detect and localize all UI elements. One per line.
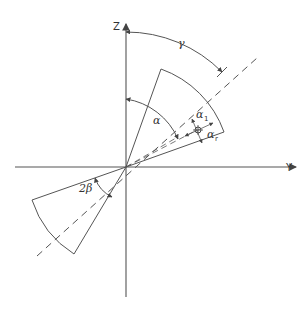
two-beta-label: 2β [78, 182, 92, 195]
diagram: Z Y γ α α 1 α r 2β [0, 0, 306, 311]
gamma-arc [126, 32, 222, 72]
gamma-label: γ [178, 37, 185, 50]
y-axis-label: Y [285, 162, 293, 173]
z-axis-label: Z [113, 21, 120, 32]
alpha-arc [126, 99, 178, 139]
lower-sector [32, 167, 126, 254]
alpha-r-label: α [207, 128, 215, 141]
alpha-label: α [153, 114, 161, 127]
alpha-r-subscript: r [215, 135, 218, 143]
alpha-1-subscript: 1 [204, 115, 208, 123]
sector-axis-dashed-line [37, 58, 257, 256]
ray-inner [126, 138, 176, 167]
upper-sector [126, 69, 224, 167]
alpha-1-label: α [196, 108, 204, 121]
